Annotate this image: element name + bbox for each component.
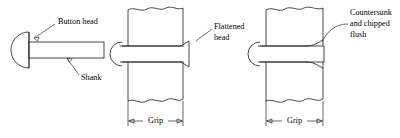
flattened-head-label-line1: Flattened — [214, 22, 244, 31]
button-head-leader-arrow — [34, 37, 39, 41]
countersunk-leader-line — [322, 24, 348, 42]
button-head-label: Button head — [58, 17, 98, 26]
flattened-head-assembly-group: Flattened head Grip — [110, 7, 244, 126]
flattened-head-leader-line — [196, 29, 212, 41]
flattened-rivet-right-head-shape — [181, 41, 189, 67]
middle-grip-label: Grip — [148, 116, 163, 125]
flattened-head-label-line2: head — [214, 33, 229, 42]
shank-label: Shank — [81, 73, 102, 82]
button-head-leader-line — [34, 24, 55, 38]
countersunk-label-line3: flush — [350, 30, 366, 39]
countersunk-label-line2: and chipped — [350, 19, 390, 28]
button-head-dome-shape — [11, 32, 29, 68]
rivet-shank-shape — [29, 42, 104, 58]
countersunk-rivet-shank-shape — [258, 46, 324, 62]
right-grip-label: Grip — [287, 116, 302, 125]
countersunk-label-line1: Countersunk — [350, 8, 393, 17]
countersunk-assembly-group: Countersunk and chipped flush Grip — [248, 7, 393, 126]
rivet-diagram-figure: Button head Shank Flattened head — [0, 0, 400, 138]
flattened-rivet-shank-shape — [120, 46, 184, 62]
shank-leader-line — [67, 58, 79, 75]
button-head-rivet-group: Button head Shank — [11, 17, 104, 82]
